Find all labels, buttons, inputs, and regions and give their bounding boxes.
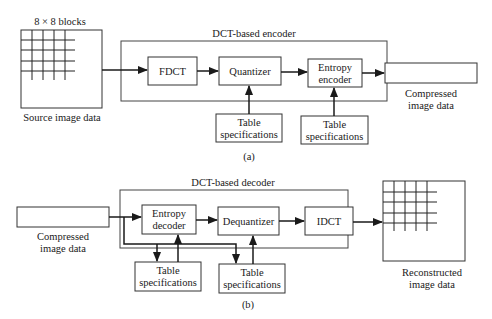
entropy-encoder-label-1: Entropy: [318, 62, 353, 73]
fdct-label: FDCT: [159, 66, 186, 77]
jpeg-codec-diagram: 8 × 8 blocks Source image data DCT-based…: [0, 0, 492, 319]
subfigure-b-label: (b): [242, 299, 255, 311]
compressed-input-label-1: Compressed: [37, 231, 90, 242]
entropy-encoder-block: Entropy encoder: [308, 59, 362, 87]
compressed-input-label-2: image data: [40, 243, 86, 254]
compressed-output-label-2: image data: [408, 100, 454, 111]
entropy-decoder-label-1: Entropy: [152, 208, 187, 219]
fdct-block: FDCT: [148, 57, 197, 85]
blocks-label: 8 × 8 blocks: [34, 16, 86, 27]
reconstructed-label-1: Reconstructed: [402, 267, 463, 278]
table-spec-label-2: specifications: [306, 131, 364, 142]
table-spec-label-2: specifications: [139, 277, 197, 288]
compressed-output-label-1: Compressed: [405, 88, 458, 99]
source-image: [21, 30, 102, 108]
subfigure-a-label: (a): [243, 151, 255, 163]
source-image-label: Source image data: [23, 112, 101, 123]
idct-label: IDCT: [317, 216, 342, 227]
encoder-diagram: 8 × 8 blocks Source image data DCT-based…: [21, 16, 477, 163]
idct-block: IDCT: [305, 207, 353, 235]
table-spec-label-1: Table: [323, 119, 347, 130]
table-spec-label-1: Table: [156, 265, 180, 276]
table-spec-label-2: specifications: [220, 129, 278, 140]
encoder-table-spec-2: Table specifications: [301, 116, 368, 144]
reconstructed-image: [383, 181, 465, 261]
encoder-table-spec-1: Table specifications: [216, 114, 282, 142]
table-spec-label-1: Table: [240, 267, 264, 278]
entropy-decoder-block: Entropy decoder: [142, 205, 196, 234]
compressed-output-box: [385, 63, 477, 83]
reconstructed-label-2: image data: [409, 279, 455, 290]
encoder-title: DCT-based encoder: [212, 28, 296, 39]
compressed-input-box: [17, 207, 109, 227]
decoder-diagram: DCT-based decoder Compressed image data …: [17, 177, 465, 311]
table-spec-label-2: specifications: [223, 279, 281, 290]
decoder-title: DCT-based decoder: [191, 177, 275, 188]
entropy-encoder-label-2: encoder: [318, 74, 352, 85]
table-spec-label-1: Table: [237, 117, 261, 128]
entropy-decoder-label-2: decoder: [152, 220, 186, 231]
dequantizer-block: Dequantizer: [218, 207, 279, 235]
quantizer-block: Quantizer: [219, 57, 281, 85]
quantizer-label: Quantizer: [229, 66, 271, 77]
decoder-table-spec-2: Table specifications: [219, 264, 285, 293]
dequantizer-label: Dequantizer: [223, 216, 275, 227]
decoder-table-spec-1: Table specifications: [135, 262, 201, 291]
